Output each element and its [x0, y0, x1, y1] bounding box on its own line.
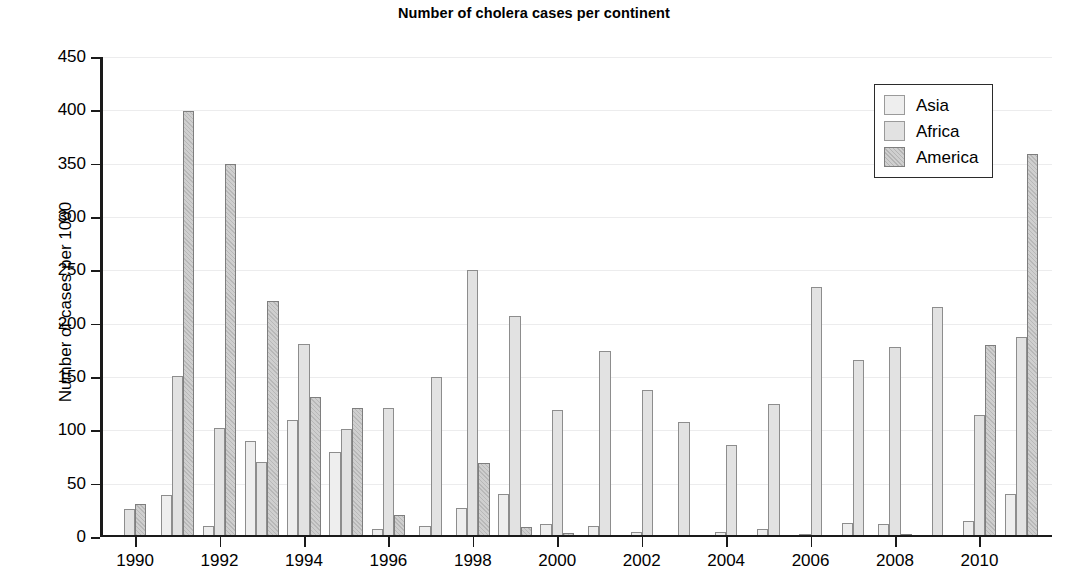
bar-africa-2000	[552, 410, 563, 536]
x-axis-tick	[304, 537, 306, 547]
gridline	[102, 217, 1052, 218]
legend-label-america: America	[916, 149, 978, 166]
bar-africa-2010	[974, 415, 985, 536]
x-axis-tick-label: 1990	[116, 551, 154, 570]
bar-africa-2007	[853, 360, 864, 536]
x-axis-tick	[220, 537, 222, 547]
x-axis-tick-label: 2006	[792, 551, 830, 570]
gridline	[102, 57, 1052, 58]
x-axis-tick-label: 2004	[707, 551, 745, 570]
x-axis-tick	[473, 537, 475, 547]
legend-swatch-icon-africa	[884, 121, 905, 141]
gridline	[102, 270, 1052, 271]
y-axis-line	[100, 57, 103, 537]
bar-america-1993	[267, 301, 278, 536]
x-axis-tick	[895, 537, 897, 547]
y-axis-tick-label: 200	[58, 314, 86, 334]
bar-asia-1998	[456, 508, 467, 536]
bar-africa-1993	[256, 462, 267, 536]
y-axis-tick-label: 350	[58, 154, 86, 174]
y-axis-tick-label: 100	[58, 420, 86, 440]
x-axis-tick-label: 2008	[876, 551, 914, 570]
y-axis-tick-label: 150	[58, 367, 86, 387]
bar-america-1996	[394, 515, 405, 536]
x-axis-tick	[388, 537, 390, 547]
bar-africa-2009	[932, 307, 943, 536]
x-axis-tick-label: 1998	[454, 551, 492, 570]
y-axis-tick-label: 400	[58, 100, 86, 120]
bar-africa-1990	[124, 509, 135, 536]
bar-america-1995	[352, 408, 363, 536]
y-axis-tick	[91, 484, 100, 486]
bar-africa-2005	[768, 404, 779, 536]
bar-africa-2002	[642, 390, 653, 536]
bar-africa-1996	[383, 408, 394, 536]
bar-asia-1999	[498, 494, 509, 536]
legend-swatch-icon-america	[884, 147, 905, 167]
bar-africa-1998	[467, 270, 478, 536]
y-axis-tick-label: 0	[77, 527, 86, 547]
y-axis-tick	[91, 270, 100, 272]
legend-swatch-icon-asia	[884, 95, 905, 115]
chart-title: Number of cholera cases per continent	[0, 5, 1068, 21]
bar-africa-1997	[431, 377, 442, 536]
y-axis-tick	[91, 57, 100, 59]
bar-asia-2011	[1005, 494, 1016, 536]
bar-africa-2008	[889, 347, 900, 536]
y-axis-tick	[91, 377, 100, 379]
x-axis-tick-label: 2000	[538, 551, 576, 570]
bar-africa-1991	[172, 376, 183, 536]
x-axis-tick	[811, 537, 813, 547]
y-axis-tick	[91, 217, 100, 219]
bar-america-1994	[310, 397, 321, 536]
bar-africa-1999	[509, 316, 520, 536]
x-axis-tick	[557, 537, 559, 547]
bar-asia-1991	[161, 495, 172, 536]
x-axis-tick-label: 1992	[201, 551, 239, 570]
y-axis-tick-label: 50	[67, 474, 86, 494]
y-axis-tick	[91, 164, 100, 166]
bar-africa-2001	[599, 351, 610, 536]
y-axis-tick	[91, 324, 100, 326]
x-axis-tick-label: 2002	[623, 551, 661, 570]
bar-africa-2004	[726, 445, 737, 536]
bar-africa-2006	[811, 287, 822, 536]
bar-america-1990	[135, 504, 146, 536]
bar-america-1998	[478, 463, 489, 536]
bar-asia-1993	[245, 441, 256, 536]
gridline	[102, 430, 1052, 431]
legend-label-asia: Asia	[916, 97, 949, 114]
bar-africa-1994	[298, 344, 309, 536]
bar-america-1991	[183, 111, 194, 536]
x-axis-tick	[979, 537, 981, 547]
y-axis-tick	[91, 537, 100, 539]
chart-legend: Asia Africa America	[874, 84, 993, 178]
y-axis-tick	[91, 430, 100, 432]
bar-africa-2011	[1016, 337, 1027, 536]
gridline	[102, 377, 1052, 378]
gridline	[102, 324, 1052, 325]
x-axis-tick-label: 1996	[369, 551, 407, 570]
bar-africa-2003	[678, 422, 689, 536]
y-axis-tick-label: 300	[58, 207, 86, 227]
legend-item-asia: Asia	[884, 92, 978, 118]
bar-africa-1992	[214, 428, 225, 536]
legend-item-africa: Africa	[884, 118, 978, 144]
bar-asia-1995	[329, 452, 340, 536]
x-axis-tick-label: 2010	[961, 551, 999, 570]
y-axis-tick-label: 250	[58, 260, 86, 280]
x-axis-line	[100, 535, 1052, 538]
x-axis-tick-label: 1994	[285, 551, 323, 570]
legend-item-america: America	[884, 144, 978, 170]
bar-africa-1995	[341, 429, 352, 536]
bar-america-1992	[225, 164, 236, 536]
legend-label-africa: Africa	[916, 123, 959, 140]
bar-america-2011	[1027, 154, 1038, 536]
y-axis-title: Number of cases per 1000	[56, 152, 76, 452]
bar-asia-1994	[287, 420, 298, 536]
x-axis-tick	[726, 537, 728, 547]
y-axis-tick-label: 450	[58, 47, 86, 67]
x-axis-tick	[135, 537, 137, 547]
y-axis-tick	[91, 110, 100, 112]
